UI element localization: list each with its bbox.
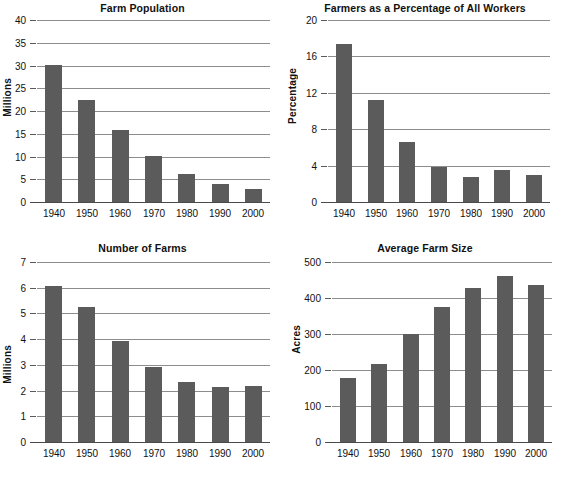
x-tick-label: 1980: [176, 208, 198, 219]
x-tick-label: 1940: [337, 448, 359, 459]
bar: [78, 100, 95, 202]
y-tick-label: 35: [15, 38, 26, 49]
y-tick-mark: [321, 129, 327, 130]
y-tick-mark: [321, 56, 327, 57]
y-tick-label: 0: [20, 197, 26, 208]
bar: [212, 387, 229, 442]
bar: [399, 142, 415, 202]
bar: [371, 364, 387, 442]
x-tick-label: 1990: [209, 448, 231, 459]
bar: [431, 167, 447, 202]
y-tick-mark: [30, 365, 36, 366]
bar: [497, 276, 513, 442]
y-tick-label: 400: [304, 293, 321, 304]
gridline: [37, 313, 270, 314]
chart-panel-farm-population: Farm Population Millions 051015202530354…: [0, 0, 285, 240]
x-tick-label: 1990: [494, 448, 516, 459]
y-tick-mark: [30, 339, 36, 340]
bar: [434, 307, 450, 442]
x-tick-label: 2000: [242, 448, 264, 459]
bar: [178, 382, 195, 442]
gridline: [37, 262, 270, 263]
plot-area: 0481216201940195019601970198019902000: [328, 20, 550, 202]
gridline: [328, 20, 550, 21]
gridline: [328, 56, 550, 57]
y-tick-mark: [30, 66, 36, 67]
y-tick-label: 10: [15, 152, 26, 163]
x-axis-line: [325, 442, 552, 443]
y-tick-mark: [30, 88, 36, 89]
y-tick-label: 0: [315, 437, 321, 448]
y-tick-label: 2: [20, 386, 26, 397]
x-tick-label: 1980: [462, 448, 484, 459]
y-tick-label: 4: [311, 161, 317, 172]
y-tick-label: 1: [20, 411, 26, 422]
plot-area: 0100200300400500194019501960197019801990…: [332, 262, 552, 442]
x-tick-label: 1970: [431, 448, 453, 459]
y-tick-label: 15: [15, 129, 26, 140]
gridline: [332, 262, 552, 263]
y-tick-mark: [321, 93, 327, 94]
x-tick-label: 1960: [109, 448, 131, 459]
x-tick-label: 1970: [143, 208, 165, 219]
x-tick-label: 1960: [109, 208, 131, 219]
y-tick-mark: [30, 111, 36, 112]
plot-area: 012345671940195019601970198019902000: [37, 262, 270, 442]
y-axis-label: Millions: [2, 78, 13, 117]
bar: [45, 286, 62, 442]
bar: [368, 100, 384, 202]
bar: [245, 189, 262, 202]
y-axis-label: Percentage: [287, 68, 298, 124]
y-tick-label: 500: [304, 257, 321, 268]
y-tick-mark: [30, 134, 36, 135]
gridline: [37, 20, 270, 21]
y-tick-mark: [30, 43, 36, 44]
gridline: [37, 88, 270, 89]
y-tick-mark: [30, 179, 36, 180]
bar: [403, 334, 419, 442]
x-tick-label: 2000: [523, 208, 545, 219]
x-tick-label: 2000: [242, 208, 264, 219]
y-tick-label: 200: [304, 365, 321, 376]
chart-panel-number-of-farms: Number of Farms Millions 012345671940195…: [0, 240, 285, 481]
x-axis-line: [30, 442, 270, 443]
bar: [494, 170, 510, 202]
y-tick-mark: [30, 391, 36, 392]
x-axis-line: [30, 202, 270, 203]
bar: [212, 184, 229, 202]
y-tick-mark: [30, 157, 36, 158]
bar: [78, 307, 95, 442]
gridline: [37, 43, 270, 44]
y-tick-label: 100: [304, 401, 321, 412]
x-tick-label: 1950: [368, 448, 390, 459]
bar: [45, 65, 62, 202]
x-tick-label: 1960: [400, 448, 422, 459]
y-tick-label: 20: [306, 15, 317, 26]
x-tick-label: 1950: [365, 208, 387, 219]
x-tick-label: 1960: [396, 208, 418, 219]
x-tick-label: 1980: [460, 208, 482, 219]
y-tick-mark: [30, 262, 36, 263]
y-tick-label: 0: [20, 437, 26, 448]
gridline: [332, 298, 552, 299]
y-tick-label: 40: [15, 15, 26, 26]
y-tick-mark: [321, 166, 327, 167]
bar: [465, 288, 481, 442]
y-tick-label: 20: [15, 106, 26, 117]
y-tick-label: 25: [15, 83, 26, 94]
y-axis-label: Millions: [2, 345, 13, 384]
y-tick-label: 5: [20, 174, 26, 185]
y-tick-label: 30: [15, 61, 26, 72]
gridline: [37, 134, 270, 135]
bar: [463, 177, 479, 202]
chart-title: Average Farm Size: [285, 242, 565, 254]
x-tick-label: 1970: [428, 208, 450, 219]
chart-panel-average-farm-size: Average Farm Size Acres 0100200300400500…: [285, 240, 565, 481]
x-tick-label: 1970: [143, 448, 165, 459]
chart-title: Farmers as a Percentage of All Workers: [285, 2, 565, 14]
gridline: [37, 288, 270, 289]
x-tick-label: 1940: [43, 208, 65, 219]
y-tick-mark: [30, 288, 36, 289]
y-tick-mark: [30, 416, 36, 417]
chart-panel-farmers-percentage: Farmers as a Percentage of All Workers P…: [285, 0, 565, 240]
